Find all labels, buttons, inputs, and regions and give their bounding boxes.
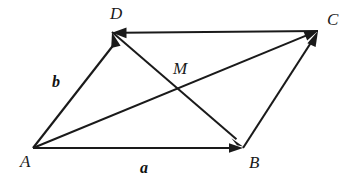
vector-diagram-figure: A B C D M a b (0, 0, 359, 177)
segment-edge-cd (122, 31, 318, 33)
vector-label-b: b (52, 73, 60, 90)
vertex-label-m: M (172, 59, 188, 78)
vertex-label-d: D (109, 4, 123, 23)
segment-diagonal-db (112, 32, 237, 139)
vertex-label-b: B (249, 153, 260, 172)
arrowhead-at-b-from-a (229, 143, 243, 153)
segment-vector-b (33, 42, 116, 149)
vertex-label-a: A (19, 152, 31, 171)
parallelogram-svg: A B C D M a b (0, 0, 359, 177)
vertex-label-c: C (327, 10, 339, 29)
vector-label-a: a (140, 159, 148, 176)
segment-diagonal-ac (33, 36, 306, 148)
